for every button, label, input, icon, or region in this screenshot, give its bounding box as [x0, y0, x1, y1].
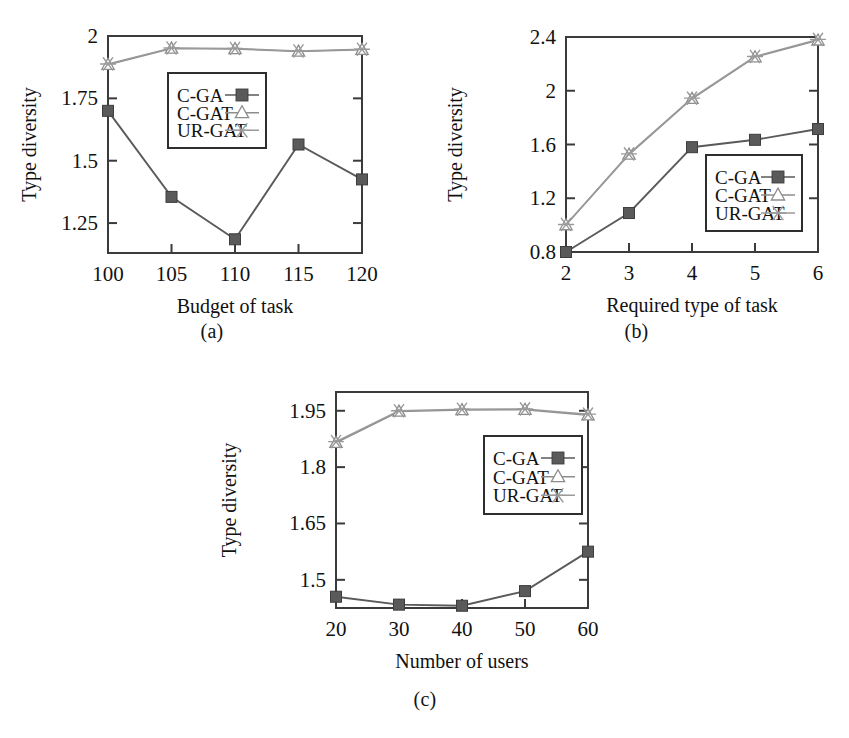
data-point-c-ga	[813, 124, 824, 135]
data-point-c-ga	[624, 208, 635, 219]
y-tick-label: 1.65	[289, 511, 326, 535]
figure-grid: 1001051101151201.251.51.752Type diversit…	[0, 0, 849, 738]
data-point-c-ga	[583, 546, 594, 557]
x-axis-label: Budget of task	[177, 295, 294, 318]
x-tick-label: 120	[346, 262, 378, 286]
chart-legend: C-GAC-GATUR-GAT	[484, 436, 582, 514]
data-point-c-ga	[520, 586, 531, 597]
y-axis-label: Type diversity	[218, 443, 241, 558]
x-tick-label: 60	[578, 617, 599, 641]
y-tick-label: 1.5	[72, 149, 98, 173]
y-tick-label: 0.8	[530, 240, 556, 264]
x-tick-label: 3	[624, 261, 635, 285]
y-tick-label: 1.75	[61, 86, 98, 110]
chart-legend: C-GAC-GATUR-GAT	[168, 73, 266, 148]
x-tick-label: 105	[156, 262, 188, 286]
data-point-c-ga	[357, 174, 368, 185]
data-point-c-ga	[561, 247, 572, 258]
x-tick-label: 20	[326, 617, 347, 641]
y-tick-label: 2.4	[530, 25, 557, 49]
x-axis-label: Required type of task	[606, 294, 778, 317]
x-tick-label: 115	[283, 262, 314, 286]
y-tick-label: 1.5	[300, 568, 326, 592]
y-axis-label: Type diversity	[18, 87, 41, 202]
x-tick-label: 40	[452, 617, 473, 641]
y-tick-label: 1.25	[61, 211, 98, 235]
chart-b-plot: 234560.81.21.622.4Type diversityRequired…	[424, 0, 849, 320]
legend-marker-c-ga	[772, 171, 784, 183]
y-tick-label: 2	[88, 24, 99, 48]
x-tick-label: 5	[750, 261, 761, 285]
y-tick-label: 1.6	[530, 133, 556, 157]
data-point-c-ga	[394, 599, 405, 610]
data-point-c-ga	[230, 234, 241, 245]
x-tick-label: 2	[561, 261, 572, 285]
chart-c-plot: 20304050601.51.651.81.95Type diversityNu…	[200, 368, 650, 688]
data-point-c-ga	[331, 591, 342, 602]
data-point-c-ga	[457, 600, 468, 611]
panel-caption-b: (b)	[424, 320, 849, 343]
y-axis-label: Type diversity	[444, 87, 467, 202]
legend-marker-c-ga	[552, 452, 564, 464]
x-tick-label: 30	[389, 617, 410, 641]
data-point-c-ga	[166, 191, 177, 202]
panel-caption-a: (a)	[0, 320, 424, 343]
data-point-c-ga	[687, 142, 698, 153]
chart-legend: C-GAC-GATUR-GAT	[706, 155, 802, 231]
x-tick-label: 4	[687, 261, 698, 285]
data-point-c-ga	[293, 139, 304, 150]
data-point-c-ga	[103, 105, 114, 116]
x-tick-label: 100	[92, 262, 124, 286]
chart-panel-a: 1001051101151201.251.51.752Type diversit…	[0, 0, 424, 370]
x-axis-label: Number of users	[395, 650, 529, 672]
y-tick-label: 2	[546, 79, 557, 103]
data-point-c-ga	[750, 134, 761, 145]
x-tick-label: 50	[515, 617, 536, 641]
chart-a-plot: 1001051101151201.251.51.752Type diversit…	[0, 0, 424, 320]
x-tick-label: 6	[813, 261, 824, 285]
x-tick-label: 110	[220, 262, 251, 286]
chart-panel-b: 234560.81.21.622.4Type diversityRequired…	[424, 0, 849, 370]
y-tick-label: 1.95	[289, 399, 326, 423]
panel-caption-c: (c)	[200, 688, 650, 711]
y-tick-label: 1.2	[530, 186, 556, 210]
chart-panel-c: 20304050601.51.651.81.95Type diversityNu…	[200, 368, 650, 738]
y-tick-label: 1.8	[300, 455, 326, 479]
legend-marker-c-ga	[236, 89, 248, 101]
series-line-c-ga	[336, 552, 588, 606]
